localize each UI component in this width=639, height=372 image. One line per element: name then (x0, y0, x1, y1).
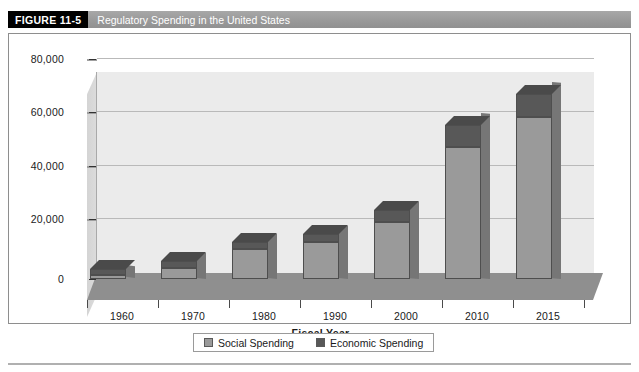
footer-divider (8, 363, 631, 365)
legend-item-economic-spending: Economic Spending (316, 337, 423, 349)
x-axis-label-1960: 1960 (100, 310, 144, 322)
legend-swatch-social-icon (204, 338, 213, 347)
y-tick-80000 (89, 59, 96, 60)
x-tick-1 (158, 300, 159, 308)
bar-1990-side (339, 225, 348, 279)
bar-2015-side (552, 82, 561, 279)
bar-2000-economic (374, 210, 410, 222)
legend-label-social-spending: Social Spending (218, 337, 294, 349)
y-axis-label-40000: 40,000 (31, 160, 64, 172)
x-tick-0 (87, 300, 88, 308)
y-axis-label-80000: 80,000 (31, 53, 64, 65)
legend-swatch-economic-icon (316, 338, 325, 347)
x-axis-label-2000: 2000 (384, 310, 428, 322)
x-axis-label-1970: 1970 (171, 310, 215, 322)
bar-1980-social (232, 249, 268, 279)
figure-header: FIGURE 11-5 Regulatory Spending in the U… (8, 11, 631, 28)
bar-1970-economic (161, 261, 197, 268)
bar-1990-social (303, 242, 339, 279)
x-axis-label-2010: 2010 (455, 310, 499, 322)
bar-1960-economic (90, 269, 126, 275)
y-tick-60000 (89, 112, 96, 113)
bar-2015-economic (516, 94, 552, 117)
x-axis-label-1980: 1980 (242, 310, 286, 322)
x-axis-label-1990: 1990 (313, 310, 357, 322)
figure-title: Regulatory Spending in the United States (88, 11, 631, 28)
y-tick-20000 (89, 219, 96, 220)
bar-2000-social (374, 222, 410, 279)
figure-number-label: FIGURE 11-5 (8, 11, 88, 28)
bar-2015-social (516, 117, 552, 279)
x-tick-2 (229, 300, 230, 308)
bar-2010-economic (445, 125, 481, 147)
y-axis-label-20000: 20,000 (31, 213, 64, 225)
x-tick-5 (442, 300, 443, 308)
y-axis-label-0: 0 (58, 273, 64, 285)
legend-item-social-spending: Social Spending (204, 337, 294, 349)
bar-1980-economic (232, 242, 268, 249)
chart-container: 80,000 60,000 40,000 20,000 0 1960 1970 … (8, 33, 631, 324)
plot-area: 80,000 60,000 40,000 20,000 0 1960 1970 … (9, 34, 630, 323)
y-tick-0 (89, 279, 96, 280)
y-axis-label-60000: 60,000 (31, 106, 64, 118)
bar-2010-social (445, 147, 481, 279)
x-tick-6 (513, 300, 514, 308)
chart-legend: Social Spending Economic Spending (193, 333, 434, 352)
bar-1990-economic (303, 234, 339, 242)
bar-2000-side (410, 201, 419, 279)
legend-label-economic-spending: Economic Spending (330, 337, 423, 349)
bar-2010-side (481, 113, 490, 279)
x-tick-4 (371, 300, 372, 308)
x-axis-label-2015: 2015 (526, 310, 570, 322)
x-tick-7 (584, 300, 585, 308)
gridline-80000 (97, 58, 594, 59)
x-tick-3 (300, 300, 301, 308)
bar-1970-social (161, 268, 197, 279)
y-tick-40000 (89, 166, 96, 167)
